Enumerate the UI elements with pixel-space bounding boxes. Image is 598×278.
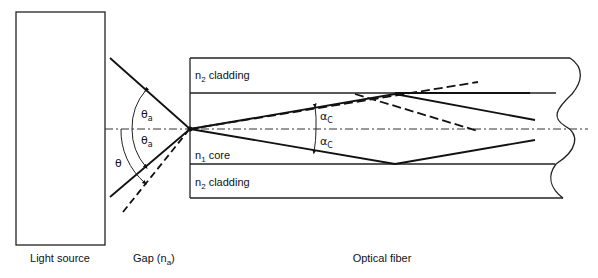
theta-a-upper-label: θa (141, 108, 153, 123)
fiber-acceptance-diagram: θa θa θ αC αC n2 cladding n1 core n2 cla… (0, 0, 598, 278)
light-source-caption: Light source (30, 252, 90, 264)
guided-rays (190, 82, 535, 164)
angle-arcs (121, 90, 316, 183)
bottom-cladding-label: n2 cladding (195, 176, 250, 191)
theta-label: θ (115, 157, 122, 170)
alpha-c-upper-label: αC (320, 110, 333, 125)
incident-rays (110, 58, 190, 212)
theta-a-lower-label: θa (141, 134, 153, 149)
alpha-c-lower-label: αC (320, 135, 333, 150)
fiber-break-edge (551, 58, 581, 198)
top-cladding-label: n2 cladding (195, 69, 250, 84)
gap-caption: Gap (na) (133, 252, 175, 267)
core-label: n1 core (195, 149, 230, 164)
optical-fiber-caption: Optical fiber (353, 252, 412, 264)
light-source-box (16, 12, 105, 245)
